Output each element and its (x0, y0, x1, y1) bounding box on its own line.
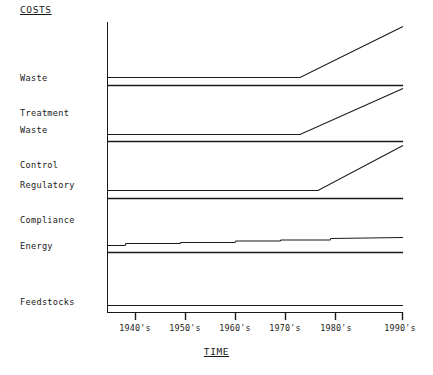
x-tick-label-1950s: 1950's (169, 323, 200, 333)
series-line-waste-control-top (108, 89, 403, 135)
x-axis-title: TIME (0, 346, 433, 357)
x-tick-label-1940s: 1940's (119, 323, 150, 333)
series-line-energy-top (108, 238, 403, 246)
x-tick-label-1980s: 1980's (320, 323, 351, 333)
series-line-regulatory-compliance-top (108, 146, 403, 191)
series-line-waste-treatment-top (108, 27, 403, 78)
x-tick-label-1990s: 1990's (384, 323, 415, 333)
chart-figure: COSTS Waste Treatment Waste Control Regu… (0, 0, 433, 375)
plot-area (0, 0, 433, 375)
x-tick-label-1970s: 1970's (269, 323, 300, 333)
x-axis-title-text: TIME (204, 346, 229, 357)
x-tick-label-1960s: 1960's (219, 323, 250, 333)
